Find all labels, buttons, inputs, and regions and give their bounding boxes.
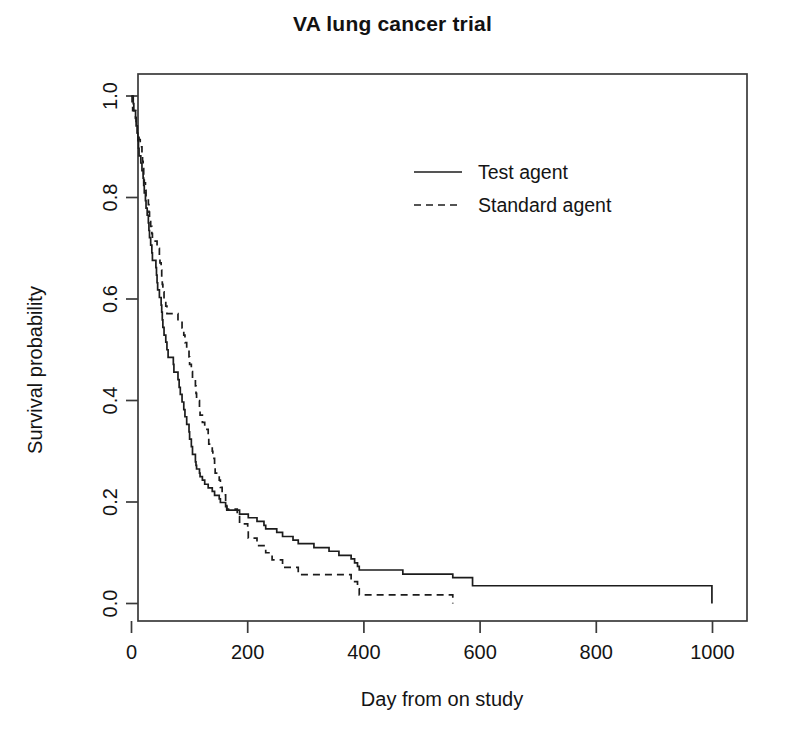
x-axis-title: Day from on study (361, 688, 523, 710)
x-tick-label: 800 (580, 641, 613, 663)
x-tick-label: 0 (126, 641, 137, 663)
y-axis-tick-labels: 0.00.20.40.60.81.0 (99, 82, 121, 617)
x-tick-label: 1000 (690, 641, 735, 663)
x-axis-tick-marks (132, 621, 713, 633)
legend-label-standard-agent: Standard agent (478, 194, 612, 216)
survival-plot: 02004006008001000 0.00.20.40.60.81.0 Day… (0, 0, 785, 734)
x-tick-label: 600 (463, 641, 496, 663)
x-tick-label: 200 (231, 641, 264, 663)
x-axis-tick-labels: 02004006008001000 (126, 641, 735, 663)
chart-figure: VA lung cancer trial 02004006008001000 0… (0, 0, 785, 734)
series-line-standard-agent (132, 96, 453, 604)
y-tick-label: 0.2 (99, 488, 121, 516)
y-tick-label: 1.0 (99, 82, 121, 110)
chart-legend: Test agent Standard agent (414, 161, 612, 216)
y-tick-label: 0.0 (99, 590, 121, 618)
plot-frame (138, 74, 747, 621)
y-tick-label: 0.4 (99, 387, 121, 415)
legend-label-test-agent: Test agent (478, 161, 569, 183)
y-tick-label: 0.6 (99, 285, 121, 313)
y-axis-title: Survival probability (24, 286, 46, 454)
y-axis-tick-marks (126, 96, 138, 604)
x-tick-label: 400 (347, 641, 380, 663)
y-tick-label: 0.8 (99, 184, 121, 212)
